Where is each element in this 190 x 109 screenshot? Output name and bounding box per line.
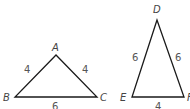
vertex-label-d: D xyxy=(153,4,161,15)
vertex-label-a: A xyxy=(51,42,59,53)
side-label-ac: 4 xyxy=(82,64,88,75)
triangle-def: D E F 6 6 4 xyxy=(120,4,190,109)
side-label-bc: 6 xyxy=(52,101,58,109)
diagram-canvas: A B C 4 4 6 D E F 6 6 4 xyxy=(0,0,190,109)
vertex-label-b: B xyxy=(3,92,10,103)
triangle-abc: A B C 4 4 6 xyxy=(3,42,107,109)
vertex-label-e: E xyxy=(120,92,127,103)
vertex-label-c: C xyxy=(100,92,107,103)
side-label-df: 6 xyxy=(175,52,181,63)
side-label-ef: 4 xyxy=(155,101,161,109)
side-label-ab: 4 xyxy=(24,64,30,75)
triangle-abc-shape xyxy=(15,55,97,97)
side-label-de: 6 xyxy=(132,52,138,63)
vertex-label-f: F xyxy=(187,92,190,103)
